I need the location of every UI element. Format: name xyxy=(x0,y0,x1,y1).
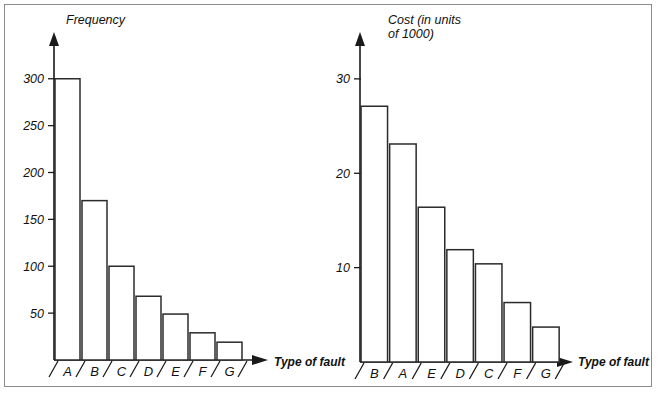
bar-F[interactable] xyxy=(504,303,531,362)
bar-A[interactable] xyxy=(390,144,417,362)
category-separator xyxy=(184,361,193,377)
category-separator xyxy=(130,361,139,377)
y-axis-title: Frequency xyxy=(66,13,126,27)
y-tick-label: 30 xyxy=(336,72,350,86)
x-category-label-A: A xyxy=(398,366,408,381)
category-separator xyxy=(49,361,58,377)
y-tick-label: 200 xyxy=(22,166,44,180)
x-category-label-D: D xyxy=(144,364,153,379)
x-category-label-G: G xyxy=(224,364,234,379)
bar-G[interactable] xyxy=(217,342,242,360)
y-tick-label: 20 xyxy=(335,167,350,181)
y-axis-title: of 1000) xyxy=(388,27,434,41)
bar-D[interactable] xyxy=(447,250,474,362)
category-separator xyxy=(157,361,166,377)
x-axis-arrow-icon xyxy=(252,355,268,365)
x-category-label-A: A xyxy=(62,364,72,379)
category-separator xyxy=(355,363,364,379)
x-category-label-E: E xyxy=(427,366,436,381)
category-separator xyxy=(469,363,478,379)
y-tick-label: 10 xyxy=(336,261,350,275)
y-tick-label: 300 xyxy=(23,72,44,86)
bar-E[interactable] xyxy=(163,314,188,360)
y-axis-title: Cost (in units xyxy=(388,13,461,27)
x-category-label-C: C xyxy=(484,366,494,381)
category-separator xyxy=(412,363,421,379)
category-separator xyxy=(441,363,450,379)
bar-D[interactable] xyxy=(136,296,161,360)
x-category-label-B: B xyxy=(370,366,379,381)
x-axis-title: Type of fault xyxy=(578,355,650,369)
x-category-label-C: C xyxy=(117,364,127,379)
category-separator xyxy=(384,363,393,379)
x-category-label-F: F xyxy=(199,364,208,379)
y-tick-label: 100 xyxy=(23,260,44,274)
x-category-label-G: G xyxy=(541,366,551,381)
bar-B[interactable] xyxy=(361,106,388,362)
category-separator xyxy=(238,361,247,377)
bar-C[interactable] xyxy=(109,266,134,360)
chart-frequency-pareto: 50100150200250300ABCDEFGFrequencyType of… xyxy=(22,13,346,379)
category-separator xyxy=(103,361,112,377)
bar-E[interactable] xyxy=(418,207,445,362)
x-category-label-B: B xyxy=(90,364,99,379)
x-category-label-F: F xyxy=(513,366,522,381)
x-category-label-E: E xyxy=(171,364,180,379)
category-separator xyxy=(76,361,85,377)
bar-A[interactable] xyxy=(55,79,80,360)
x-category-label-D: D xyxy=(455,366,464,381)
bar-F[interactable] xyxy=(190,333,215,360)
bar-C[interactable] xyxy=(475,264,502,362)
y-tick-label: 250 xyxy=(22,119,44,133)
category-separator xyxy=(527,363,536,379)
y-tick-label: 50 xyxy=(30,307,44,321)
charts-svg: 50100150200250300ABCDEFGFrequencyType of… xyxy=(0,0,658,393)
y-axis-arrow-icon xyxy=(355,32,365,46)
chart-cost-pareto: 102030BAEDCFGCost (in unitsof 1000)Type … xyxy=(335,13,650,381)
y-axis-arrow-icon xyxy=(49,32,59,46)
category-separator xyxy=(211,361,220,377)
y-tick-label: 150 xyxy=(23,213,44,227)
bar-G[interactable] xyxy=(533,327,560,362)
category-separator xyxy=(498,363,507,379)
x-axis-title: Type of fault xyxy=(274,355,346,369)
bar-B[interactable] xyxy=(82,201,107,360)
